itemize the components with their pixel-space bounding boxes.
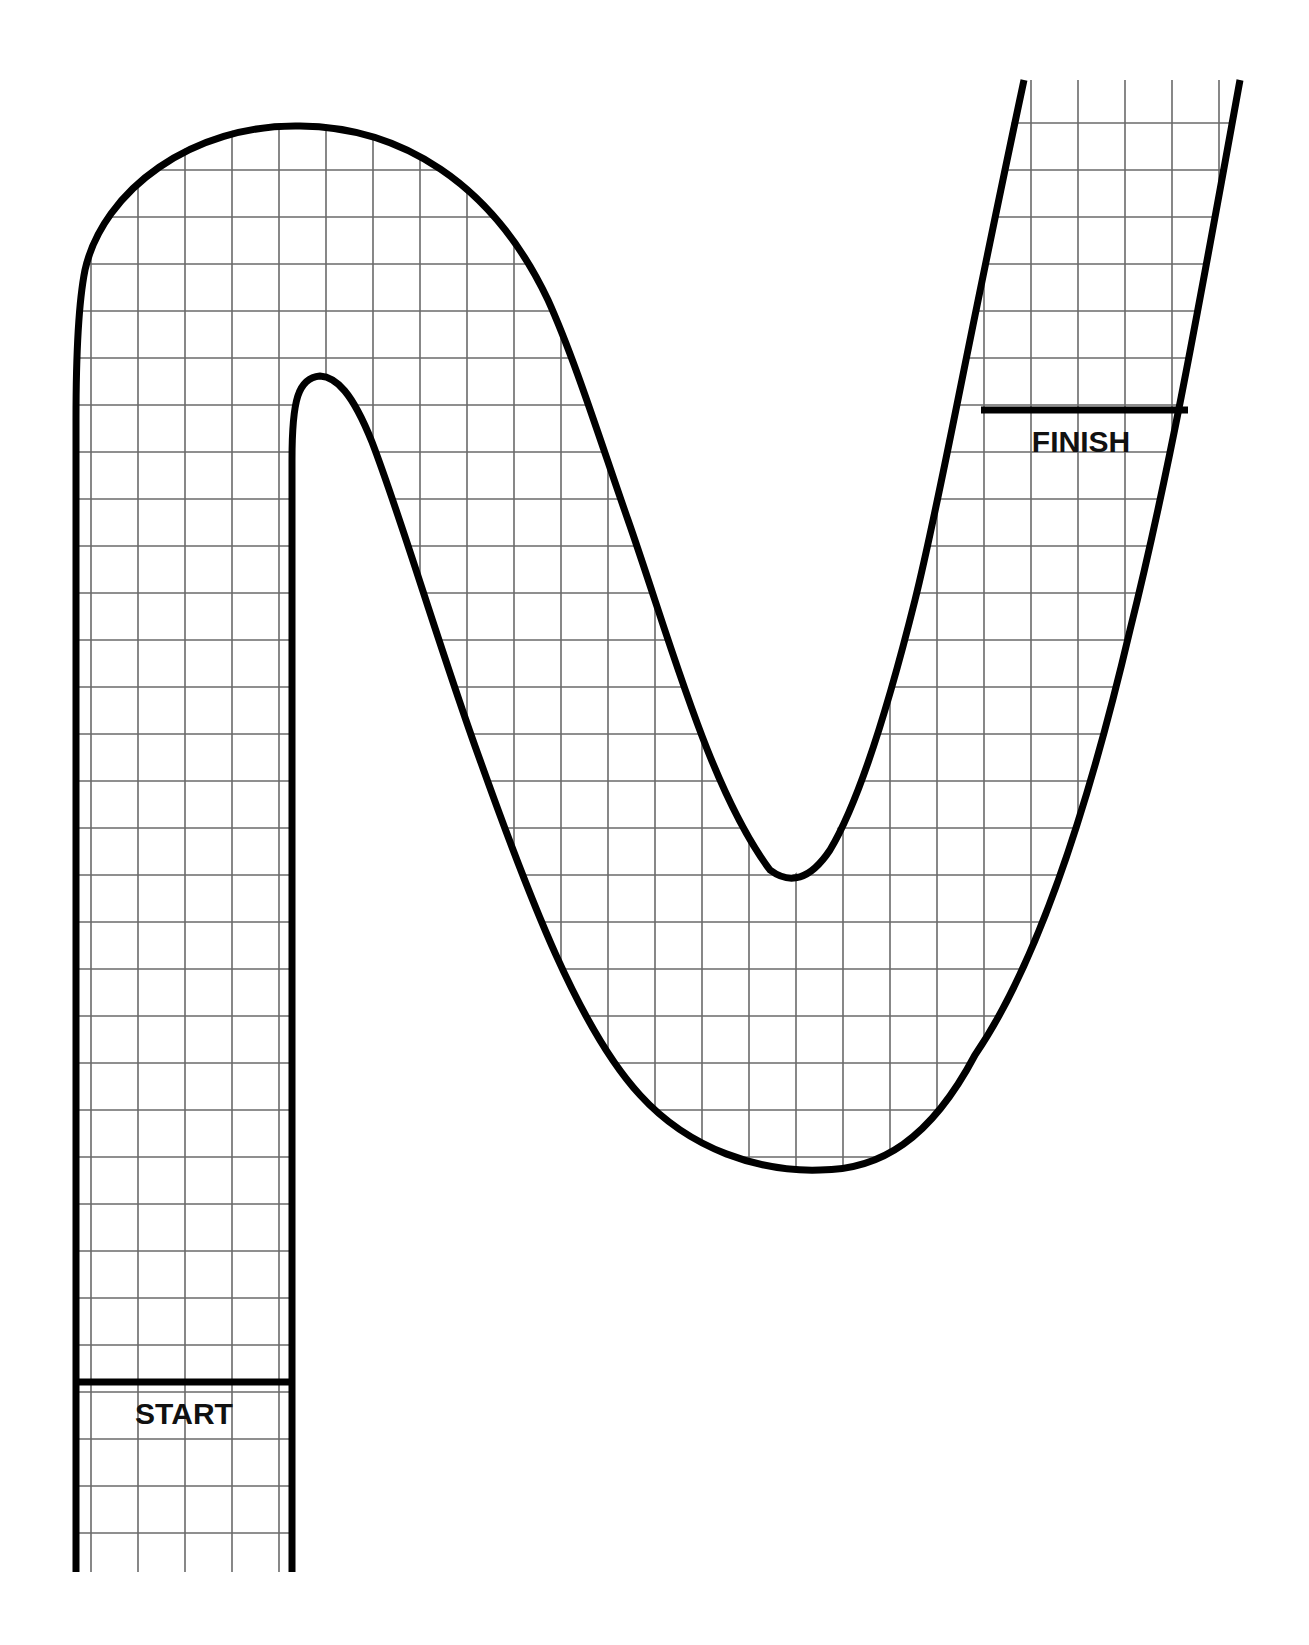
race-track-diagram: START FINISH [0,0,1309,1645]
track-outline [74,80,1240,1572]
track-inner-edge [292,80,1240,1572]
track-outer-edge [76,80,1024,1572]
finish-label: FINISH [1032,425,1130,458]
start-label: START [135,1397,233,1430]
